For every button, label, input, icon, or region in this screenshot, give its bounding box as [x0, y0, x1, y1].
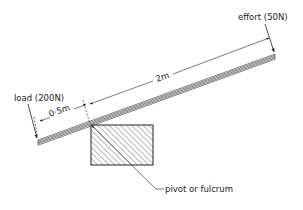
load-label: load (200N)	[14, 93, 64, 103]
effort-label: effort (50N)	[238, 12, 288, 22]
load-arrow	[28, 104, 37, 138]
lever-bar	[38, 54, 275, 145]
fulcrum-block	[91, 125, 153, 165]
short-distance-label: 0·5m	[47, 102, 71, 119]
pivot-label: pivot or fulcrum	[165, 184, 233, 194]
long-distance-label: 2m	[154, 70, 170, 84]
effort-arrow	[265, 24, 274, 52]
lever-diagram: load (200N) effort (50N) 0·5m 2m pivot o…	[0, 0, 303, 210]
